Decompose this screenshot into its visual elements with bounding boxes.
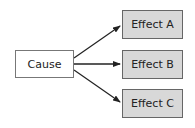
effect-c-box: Effect C xyxy=(122,89,183,118)
effect-b-box: Effect B xyxy=(122,50,183,79)
effect-b-label: Effect B xyxy=(131,58,174,71)
effect-a-label: Effect A xyxy=(131,18,174,31)
cause-box: Cause xyxy=(15,50,74,78)
arrow-to-effect-a xyxy=(74,26,120,58)
effect-c-label: Effect C xyxy=(131,97,174,110)
arrow-to-effect-c xyxy=(74,70,120,102)
cause-label: Cause xyxy=(28,58,62,71)
cause-effect-diagram: Cause Effect A Effect B Effect C xyxy=(0,0,195,128)
effect-a-box: Effect A xyxy=(122,10,183,39)
